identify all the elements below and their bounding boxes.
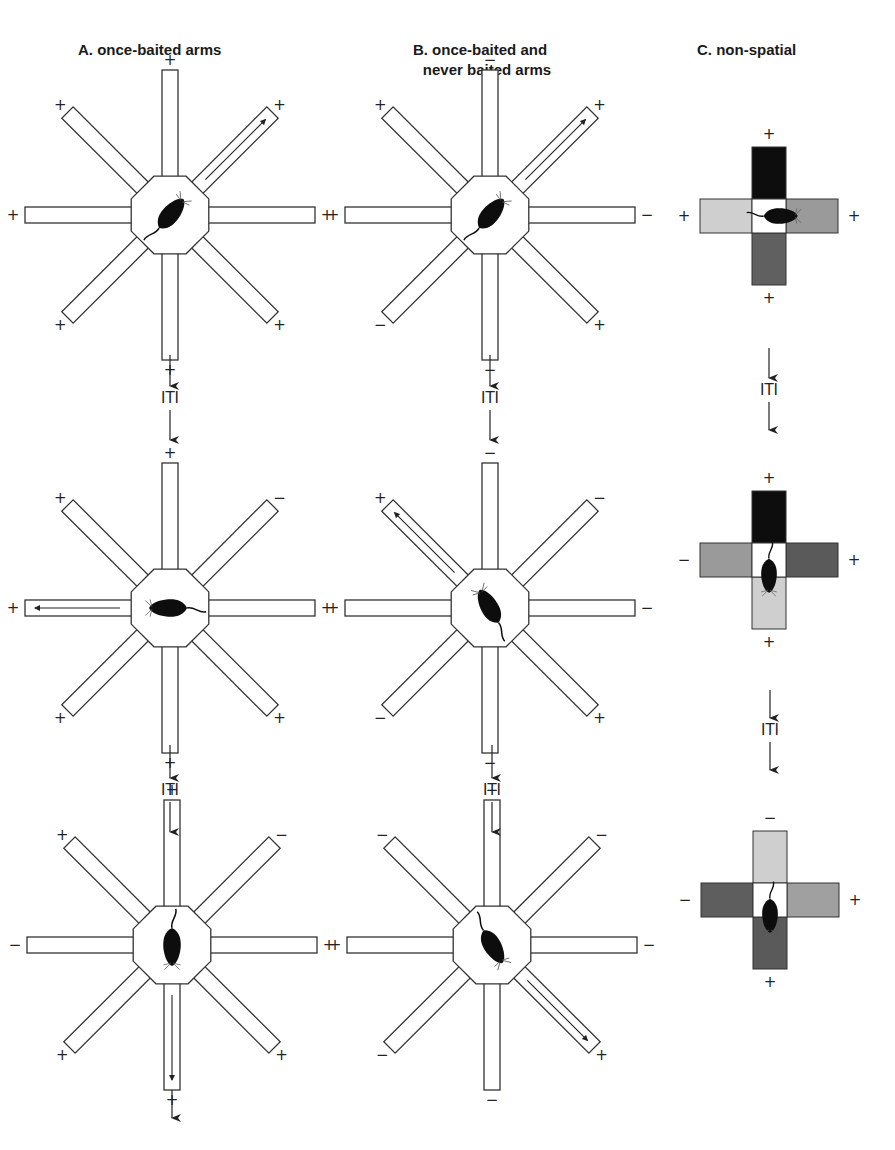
arm-sign-se: + xyxy=(593,709,606,727)
maze-arm-e xyxy=(200,207,315,223)
arm-sign-n: + xyxy=(164,51,177,69)
arm-sign-ne: − xyxy=(595,826,608,844)
maze-arm-w xyxy=(27,937,142,953)
arm-sign-s: + xyxy=(764,973,777,991)
arm-sign-w: − xyxy=(678,551,691,569)
arm-sign-sw: − xyxy=(376,1046,389,1064)
cross-arm-n xyxy=(753,831,787,883)
maze-arm-n xyxy=(162,70,178,185)
arm-sign-sw: + xyxy=(54,316,67,334)
maze-arm-e xyxy=(202,937,317,953)
iti-label: ITI xyxy=(483,781,501,799)
arm-sign-w: + xyxy=(327,599,340,617)
movement-arrow xyxy=(395,513,455,573)
maze-arm-sw xyxy=(382,231,475,324)
cross-arm-n xyxy=(752,147,786,199)
arm-sign-e: − xyxy=(643,936,656,954)
maze-arm-se xyxy=(506,624,599,717)
arm-sign-w: + xyxy=(7,599,20,617)
arm-sign-sw: − xyxy=(374,709,387,727)
arm-sign-nw: + xyxy=(374,489,387,507)
maze-arm-sw xyxy=(384,961,477,1054)
maze-arm-e xyxy=(520,600,635,616)
radial-maze-a-trial-3: +−++++−+ xyxy=(9,781,336,1109)
maze-arm-sw xyxy=(62,231,155,324)
cross-arm-e xyxy=(786,543,838,577)
iti-connector-c: ITI xyxy=(761,690,779,770)
arm-sign-e: − xyxy=(641,599,654,617)
maze-arm-nw xyxy=(62,107,155,200)
arm-sign-s: − xyxy=(486,1091,499,1109)
maze-arm-ne xyxy=(506,500,599,593)
arm-sign-nw: + xyxy=(56,826,69,844)
arm-sign-se: + xyxy=(593,316,606,334)
maze-arm-se xyxy=(186,624,279,717)
maze-arm-s xyxy=(162,245,178,360)
arm-sign-n: − xyxy=(764,809,777,827)
maze-arm-w xyxy=(25,600,140,616)
maze-arm-ne xyxy=(506,107,599,200)
arm-sign-sw: + xyxy=(56,1046,69,1064)
maze-arm-ne xyxy=(508,837,601,930)
arm-sign-se: + xyxy=(595,1046,608,1064)
arm-sign-nw: + xyxy=(374,96,387,114)
maze-arm-s xyxy=(162,638,178,753)
arm-sign-se: + xyxy=(273,709,286,727)
cross-maze-trial-3: −+−+ xyxy=(679,809,862,991)
arm-sign-n: + xyxy=(763,125,776,143)
arm-sign-e: + xyxy=(848,207,861,225)
cross-arm-w xyxy=(701,883,753,917)
arm-sign-w: + xyxy=(7,206,20,224)
movement-arrow xyxy=(205,120,265,180)
iti-connector-c: ITI xyxy=(760,348,778,430)
maze-arm-ne xyxy=(188,837,281,930)
maze-arm-s xyxy=(482,245,498,360)
maze-arm-s xyxy=(482,638,498,753)
maze-arm-se xyxy=(506,231,599,324)
arm-sign-sw: − xyxy=(374,316,387,334)
maze-arm-w xyxy=(25,207,140,223)
cross-arm-w xyxy=(700,543,752,577)
arm-sign-ne: + xyxy=(273,96,286,114)
radial-maze-a-trial-2: +−++++++ xyxy=(7,444,334,772)
radial-maze-b-trial-1: −+−+−−++ xyxy=(327,51,654,379)
maze-arm-se xyxy=(508,961,601,1054)
iti-label: ITI xyxy=(481,389,499,407)
cross-arm-e xyxy=(787,883,839,917)
iti-label: ITI xyxy=(161,781,179,799)
movement-arrow xyxy=(527,980,587,1040)
maze-arm-e xyxy=(200,600,315,616)
iti-label: ITI xyxy=(161,389,179,407)
arm-sign-ne: − xyxy=(593,489,606,507)
arm-sign-se: + xyxy=(275,1046,288,1064)
maze-arm-s xyxy=(484,975,500,1090)
arm-sign-w: + xyxy=(329,936,342,954)
maze-arm-nw xyxy=(64,837,157,930)
arm-sign-n: − xyxy=(484,444,497,462)
iti-label: ITI xyxy=(760,381,778,399)
movement-arrow xyxy=(525,120,585,180)
maze-arm-w xyxy=(345,600,460,616)
maze-arm-n xyxy=(162,463,178,578)
arm-sign-w: + xyxy=(678,207,691,225)
maze-arm-e xyxy=(522,937,637,953)
arm-sign-e: + xyxy=(849,891,862,909)
maze-arm-ne xyxy=(186,107,279,200)
iti-label: ITI xyxy=(761,721,779,739)
maze-arm-n xyxy=(482,463,498,578)
maze-arm-sw xyxy=(382,624,475,717)
maze-arm-sw xyxy=(62,624,155,717)
maze-arm-sw xyxy=(64,961,157,1054)
maze-arm-w xyxy=(345,207,460,223)
cross-maze-trial-1: ++++ xyxy=(678,125,861,307)
arm-sign-e: − xyxy=(641,206,654,224)
arm-sign-w: − xyxy=(9,936,22,954)
maze-arm-n xyxy=(164,800,180,915)
maze-arm-nw xyxy=(384,837,477,930)
radial-maze-b-trial-2: −−−+−−++ xyxy=(327,444,654,772)
arm-sign-n: − xyxy=(484,51,497,69)
arm-sign-w: − xyxy=(679,891,692,909)
cross-maze-trial-2: ++−+ xyxy=(678,469,861,651)
arm-sign-s: + xyxy=(763,633,776,651)
arm-sign-ne: − xyxy=(273,489,286,507)
